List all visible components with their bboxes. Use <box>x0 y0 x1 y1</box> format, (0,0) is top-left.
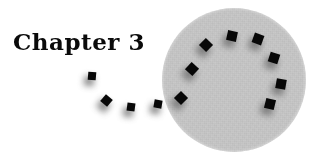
square-marker-body <box>275 78 287 90</box>
square-marker-body <box>226 30 238 42</box>
square-marker-body <box>153 99 162 108</box>
chapter-opener-figure: Chapter 3 <box>0 0 330 164</box>
page-title: Chapter 3 <box>13 29 145 55</box>
square-marker-body <box>88 72 97 81</box>
square-marker-body <box>126 102 135 111</box>
